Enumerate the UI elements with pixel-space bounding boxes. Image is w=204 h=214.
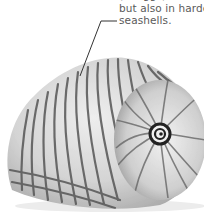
shell-whorl xyxy=(114,80,204,200)
seashell-illustration xyxy=(0,0,204,214)
